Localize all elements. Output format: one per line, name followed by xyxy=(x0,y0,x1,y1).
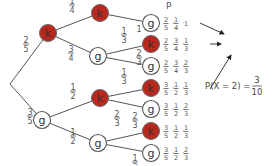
node-ggk: k xyxy=(143,123,160,140)
probability-denominator: 4 xyxy=(68,54,73,63)
result-denominator: 10 xyxy=(252,87,263,97)
path-product: 35·12·23 xyxy=(164,146,189,162)
factor-numerator: 1 xyxy=(174,146,178,154)
probability-denominator: 5 xyxy=(27,117,32,126)
factor-denominator: 3 xyxy=(184,45,188,53)
node-k1: k xyxy=(40,25,57,42)
tree-edge xyxy=(106,133,142,141)
factor-numerator: 2 xyxy=(184,146,188,154)
factor-numerator: 2 xyxy=(164,37,168,45)
probability-denominator: 3 xyxy=(132,163,137,166)
path-products: 25·14·125·34·1325·34·2335·12·1335·12·233… xyxy=(164,16,189,162)
factor-numerator: 3 xyxy=(174,37,178,45)
probability-numerator: 1 xyxy=(132,154,137,163)
node-label: g xyxy=(39,114,46,127)
arrow-icon xyxy=(200,23,224,34)
factor-numerator: 3 xyxy=(164,146,168,154)
factor-numerator: 3 xyxy=(164,102,168,110)
column-header-p: P xyxy=(166,1,172,11)
edge-probability: 12 xyxy=(70,83,76,101)
path-product: 25·34·23 xyxy=(164,59,189,75)
edge-probability: 23 xyxy=(132,112,138,130)
tree-edge xyxy=(56,16,92,30)
factor-numerator: 1 xyxy=(174,81,178,89)
node-kg: g xyxy=(90,48,107,65)
tree-edge xyxy=(108,100,142,107)
factor-numerator: 1 xyxy=(184,37,188,45)
probability-numerator: 2 xyxy=(136,49,141,58)
factor-denominator: 4 xyxy=(174,24,178,32)
factor-denominator: 3 xyxy=(184,154,188,162)
node-gkg: g xyxy=(143,101,160,118)
node-kgg: g xyxy=(143,58,160,75)
edge-probability: 23 xyxy=(136,49,142,67)
tree-edge xyxy=(108,15,142,22)
node-g1: g xyxy=(34,112,51,129)
factor-denominator: 5 xyxy=(164,67,168,75)
path-product: 25·14·1 xyxy=(164,16,189,32)
factor-denominator: 5 xyxy=(164,24,168,32)
node-ggg: g xyxy=(143,145,160,162)
node-kgk: k xyxy=(143,36,160,53)
factor-numerator: 2 xyxy=(164,59,168,67)
factor-numerator: 2 xyxy=(184,102,188,110)
tree-edge xyxy=(50,101,92,117)
edge-probability: 1 xyxy=(136,25,141,34)
factor-denominator: 2 xyxy=(174,154,178,162)
probability-denominator: 2 xyxy=(70,92,75,101)
factor-denominator: 5 xyxy=(164,45,168,53)
factor-denominator: 5 xyxy=(164,154,168,162)
factor-numerator: 3 xyxy=(164,124,168,132)
node-kk: k xyxy=(92,5,109,22)
probability-numerator: 1 xyxy=(121,68,126,77)
probability-numerator: 3 xyxy=(68,45,73,54)
tree-edge xyxy=(106,145,142,152)
factor-denominator: 3 xyxy=(184,110,188,118)
edge-probability-labels: 2535143412121132313232313 xyxy=(23,0,142,165)
probability-denominator: 3 xyxy=(132,121,137,130)
node-gkk: k xyxy=(143,80,160,97)
probability-numerator: 3 xyxy=(27,108,32,117)
factor-denominator: 4 xyxy=(174,45,178,53)
probability-denominator: 3 xyxy=(121,36,126,45)
probability-denominator: 3 xyxy=(136,58,141,67)
edge-probability: 25 xyxy=(23,36,29,54)
node-label: k xyxy=(97,92,104,105)
probability-tree: 2535143412121132313232313 kgkgkggkgkgkg … xyxy=(0,0,277,165)
factor-denominator: 2 xyxy=(174,110,178,118)
node-label: g xyxy=(95,50,102,63)
node-label: g xyxy=(148,103,155,116)
node-label: k xyxy=(45,27,52,40)
factor-denominator: 5 xyxy=(164,110,168,118)
node-label: k xyxy=(148,125,155,138)
probability-numerator: 2 xyxy=(114,110,119,119)
factor-numerator: 1 xyxy=(184,81,188,89)
node-label: g xyxy=(148,60,155,73)
node-label: g xyxy=(148,17,155,30)
factor-value: 1 xyxy=(184,20,188,28)
node-kkg: g xyxy=(143,15,160,32)
node-label: g xyxy=(148,147,155,160)
factor-numerator: 1 xyxy=(184,124,188,132)
edge-probability: 13 xyxy=(121,68,127,86)
edge-probability: 34 xyxy=(68,45,74,63)
probability-numerator: 1 xyxy=(121,27,126,36)
factor-numerator: 1 xyxy=(174,102,178,110)
probability-numerator: 2 xyxy=(132,112,137,121)
edge-probability: 13 xyxy=(121,27,127,45)
probability-value: 1 xyxy=(136,25,141,34)
node-label: k xyxy=(148,82,155,95)
factor-numerator: 3 xyxy=(174,59,178,67)
edge-probability: 13 xyxy=(132,154,138,166)
node-gk: k xyxy=(92,90,109,107)
factor-denominator: 2 xyxy=(174,89,178,97)
factor-denominator: 4 xyxy=(174,67,178,75)
node-gg: g xyxy=(90,135,107,152)
path-product: 35·12·13 xyxy=(164,81,189,97)
probability-denominator: 4 xyxy=(69,6,74,15)
path-product: 35·12·13 xyxy=(164,124,189,140)
factor-denominator: 5 xyxy=(164,89,168,97)
factor-numerator: 3 xyxy=(164,81,168,89)
path-product: 25·34·13 xyxy=(164,37,189,53)
probability-denominator: 3 xyxy=(121,77,126,86)
